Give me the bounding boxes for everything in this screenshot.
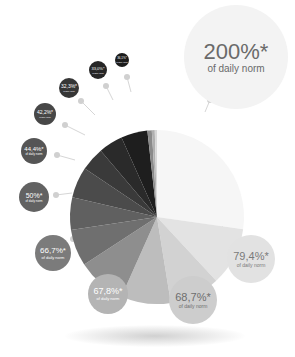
- bubble-subtitle: of daily norm: [207, 64, 264, 74]
- bubble-subtitle: of daily norm: [25, 153, 42, 156]
- value-bubble: 79,4%*of daily norm: [227, 235, 275, 283]
- pie-shadow: [65, 325, 245, 347]
- bubble-value: 50%*: [26, 192, 43, 199]
- bubble-value: 42,2%*: [37, 110, 53, 115]
- bubble-value: 79,4%*: [233, 251, 268, 262]
- value-bubble: 42,2%*of daily norm: [34, 103, 56, 125]
- bubble-subtitle: of daily norm: [237, 263, 266, 268]
- bubble-value: 68,7%*: [175, 292, 210, 303]
- bubble-subtitle: of daily norm: [39, 116, 50, 118]
- bubble-subtitle: of daily norm: [25, 200, 42, 203]
- connector-line: [65, 125, 85, 135]
- bubble-subtitle: of daily norm: [97, 297, 120, 301]
- pie-slice: [157, 130, 244, 229]
- connector-dot: [62, 122, 68, 128]
- value-bubble: 68,7%*of daily norm: [169, 276, 217, 324]
- value-bubble: 33,0%*of daily norm: [89, 61, 107, 79]
- bubble-subtitle: of daily norm: [116, 61, 127, 63]
- connector-dot: [124, 74, 130, 80]
- value-bubble: 67,8%*of daily norm: [88, 274, 128, 314]
- value-bubble: 36,1%*of daily norm: [115, 53, 129, 67]
- connector-dot: [78, 98, 84, 104]
- value-bubble: 200%*of daily norm: [184, 5, 288, 109]
- bubble-subtitle: of daily norm: [63, 90, 74, 92]
- value-bubble: 50%*of daily norm: [19, 182, 49, 212]
- bubble-value: 66,7%*: [40, 247, 66, 255]
- bubble-value: 200%*: [204, 41, 269, 63]
- bubble-value: 36,1%*: [117, 57, 127, 60]
- bubble-value: 33,0%*: [92, 67, 105, 71]
- connector-dot: [103, 83, 109, 89]
- connector-dot: [54, 152, 60, 158]
- value-bubble: 32,3%*of daily norm: [59, 78, 79, 98]
- connector-dot: [53, 192, 59, 198]
- bubble-value: 32,3%*: [61, 84, 77, 89]
- bubble-value: 67,8%*: [93, 287, 122, 296]
- bubble-subtitle: of daily norm: [92, 72, 103, 74]
- value-bubble: 44,4%*of daily norm: [21, 138, 47, 164]
- value-bubble: 66,7%*of daily norm: [35, 235, 71, 271]
- bubble-subtitle: of daily norm: [42, 256, 65, 260]
- bubble-subtitle: of daily norm: [179, 304, 208, 309]
